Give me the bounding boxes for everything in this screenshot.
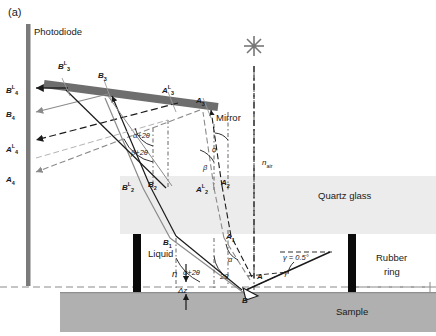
delta-z-label: Δz [178,286,187,295]
angle-label-beta-plus-2theta-upper: β+2θ [131,148,148,157]
interface-point-label-B: B [242,296,248,305]
mirror-point-label-A3L: AL3 [162,84,174,96]
detector-label-B4L: BL4 [6,84,18,96]
liquid-index-label: n [172,268,177,279]
rubber-ring-label-line2: ring [384,266,400,277]
photodiode-bar [26,24,31,286]
interface-point-label-B1: B1 [163,238,172,249]
angle-label-beta-right: β [203,163,207,172]
rubber-ring-right [348,234,356,292]
surface-point-label-B2: B2 [148,180,157,191]
n-air-label: nair [262,158,273,169]
panel-label: (a) [8,6,21,18]
quartz-glass-block [120,176,436,234]
detector-label-A4L: AL4 [6,143,18,155]
photodiode-label: Photodiode [34,26,82,37]
surface-point-label-B2L: BL2 [122,181,134,193]
mirror-point-label-B3L: BL3 [58,60,70,72]
angle-label-gamma-vertex: γ [284,268,288,277]
detector-label-A4: A4 [6,175,15,186]
angle-label-two-theta-lower: 2θ [220,272,228,281]
surface-point-label-A2L: AL2 [196,183,208,195]
beam-A3L-to-A4L [36,103,178,140]
interface-point-label-A1: A1 [226,232,235,243]
mirror-point-label-A3: A3 [196,96,205,107]
angle-label-alpha-plus-2theta-upper: α+2θ [133,131,150,140]
angle-label-alpha-plus-2theta-lower: α+2θ [183,268,200,277]
rubber-ring-label-line1: Rubber [376,252,407,263]
angle-label-alpha-right: α [212,145,216,154]
detector-label-B4: B4 [6,110,15,121]
angle-label-gamma-value: γ = 0.5° [283,253,309,262]
mirror-point-label-B3: B3 [98,71,107,82]
angle-label-alpha-lower: α [228,255,232,264]
surface-point-label-A2: A2 [221,178,230,189]
mirror-label: Mirror [216,112,241,123]
interface-point-label-A: A [257,272,263,281]
diagram-canvas [0,0,436,336]
figure-panel-a: (a) Photodiode Mirror Quartz glass Liqui… [0,0,436,336]
sample-label: Sample [336,306,368,317]
light-source-star-icon [244,36,264,56]
quartz-glass-label: Quartz glass [318,190,371,201]
liquid-label: Liquid [148,248,173,259]
rubber-ring-left [133,234,141,292]
